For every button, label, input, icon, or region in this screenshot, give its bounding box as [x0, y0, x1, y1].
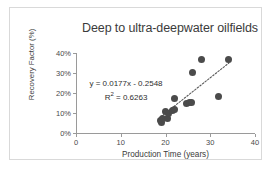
y-axis-title: Recovery Factor (%)	[27, 17, 36, 113]
x-axis-tick-label: 30	[198, 138, 222, 147]
scatter-point	[189, 69, 196, 76]
figure-frame: Deep to ultra-deepwater oilfields Recove…	[9, 7, 262, 160]
x-axis-tick-mark	[255, 134, 256, 137]
x-axis-tick-mark	[166, 134, 167, 137]
x-axis-tick-label: 40	[243, 138, 267, 147]
trendline-equation: y = 0.0177x - 0.2548	[74, 78, 178, 89]
y-axis-tick-mark	[73, 53, 76, 54]
scatter-point	[171, 106, 178, 113]
chart-title: Deep to ultra-deepwater oilfields	[70, 21, 270, 35]
r-value: = 0.6263	[114, 93, 148, 102]
x-axis-tick-mark	[121, 134, 122, 137]
y-axis-tick-label: 0%	[45, 129, 71, 138]
x-axis-tick-mark	[76, 134, 77, 137]
y-axis-tick-mark	[73, 73, 76, 74]
x-axis-tick-label: 0	[64, 138, 88, 147]
y-axis-tick-label: 40%	[45, 49, 71, 58]
y-axis-tick-label: 30%	[45, 69, 71, 78]
x-axis-tick-mark	[210, 134, 211, 137]
x-axis-title: Production Time (years)	[76, 150, 255, 159]
scatter-point	[198, 56, 205, 63]
x-axis-tick-label: 20	[154, 138, 178, 147]
scatter-point	[215, 93, 222, 100]
y-axis-tick-label: 20%	[45, 89, 71, 98]
y-axis-tick-label: 10%	[45, 109, 71, 118]
scatter-point	[188, 99, 195, 106]
trendline-annotation: y = 0.0177x - 0.2548 R2 = 0.6263	[74, 78, 178, 103]
x-axis-tick-label: 10	[109, 138, 133, 147]
y-axis-tick-mark	[73, 113, 76, 114]
scatter-point	[225, 56, 232, 63]
trendline-r-squared: R2 = 0.6263	[74, 89, 178, 103]
